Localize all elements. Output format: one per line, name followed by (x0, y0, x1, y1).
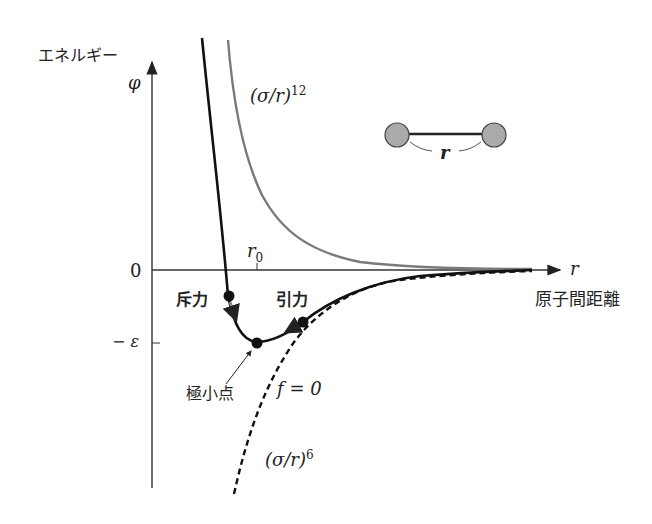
force-zero-label: f = 0 (277, 378, 322, 399)
r0-label: r0 (247, 240, 263, 265)
inset-distance-label: r (440, 142, 449, 163)
attraction-force-arrow (286, 324, 300, 332)
atom-left (385, 123, 409, 147)
y-axis-label: エネルギー (38, 42, 118, 66)
repulsive-curve-label: (σ/r)12 (250, 84, 306, 106)
repulsion-label: 斥力 (176, 286, 208, 310)
zero-label: 0 (130, 260, 141, 281)
minimum-point (252, 338, 263, 349)
attraction-label: 引力 (276, 286, 308, 310)
atom-right (482, 123, 506, 147)
attractive-curve-label: (σ/r)6 (265, 448, 314, 470)
repulsive-curve (228, 40, 532, 269)
attraction-point (298, 317, 309, 328)
minus-epsilon-label: − ε (112, 332, 139, 351)
y-axis-symbol: φ (128, 72, 141, 93)
x-axis-label: 原子間距離 (535, 285, 620, 310)
x-axis-symbol: r (570, 258, 579, 279)
minimum-label: 極小点 (186, 380, 234, 404)
potential-diagram (0, 0, 652, 524)
repulsion-point (224, 291, 235, 302)
